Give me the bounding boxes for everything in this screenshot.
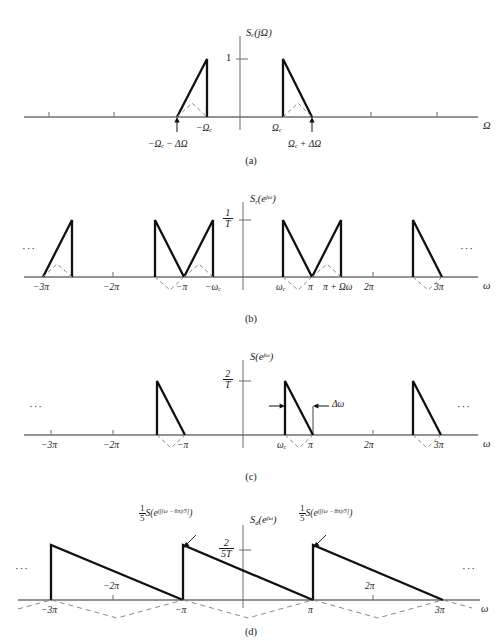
dashed-replica-right — [313, 600, 443, 618]
panel-c-tick-label-2pi: 2π — [364, 441, 374, 451]
panel-b-label-pi-plus: π + Ωω — [323, 283, 353, 293]
pos-wc-text: ω — [277, 440, 284, 450]
fraction-denominator: 5T — [219, 549, 234, 559]
panel-d-tick-label-negpi: −π — [175, 606, 186, 616]
panel-a: Sc(jΩ) 1 Ω −Ωc Ωc −Ωc − ΔΩ Ωc + ΔΩ (a) — [0, 0, 502, 170]
panel-d: Sd(ejω) 25T ω ··· ··· 15S(ej[(ω − 6π)/5]… — [0, 495, 502, 641]
panel-a-label-left-arrow: −Ωc − ΔΩ — [148, 140, 188, 150]
panel-a-label-right-arrow: Ωc + ΔΩ — [288, 140, 321, 150]
left-arrow-rest: − ΔΩ — [164, 139, 188, 149]
annotation-tail: ) — [189, 508, 192, 518]
panel-c-caption: (c) — [0, 471, 502, 482]
panel-d-tick-label-3pi: 3π — [435, 606, 445, 616]
panel-b-tick-label-2pi: 2π — [364, 283, 374, 293]
panel-b-tick-label-neg3pi: −3π — [33, 283, 49, 293]
panel-c-left-ellipsis: ··· — [29, 401, 43, 412]
panel-c-delta-omega-annotation: Δω — [332, 400, 344, 410]
right-arrow-base: Ω — [288, 139, 295, 149]
sawtooth-negpi-to-pi — [183, 545, 313, 600]
panel-c-tick-label-neg3pi: −3π — [41, 441, 57, 451]
y-label-tail: ) — [272, 193, 276, 204]
main-band-triangle — [285, 381, 313, 435]
y-label-rest: (jΩ) — [254, 27, 272, 38]
panel-c-y-axis-label: S(ejω) — [250, 352, 273, 363]
panel-d-left-annotation: 15S(ej[(ω − 6π)/5]) — [139, 504, 192, 523]
annotation-body: S(e — [146, 508, 158, 518]
neg-omega-c-sub: c — [209, 127, 212, 133]
positive-band-triangle — [283, 59, 312, 117]
replica-3pi — [413, 220, 442, 277]
panel-c-y-tick-label: 2T — [223, 369, 233, 390]
dashed-replica-center — [183, 600, 313, 618]
panel-d-left-ellipsis: ··· — [15, 563, 29, 574]
two-over-T-fraction: 2T — [223, 369, 233, 390]
replica-negpi-left — [155, 220, 184, 277]
pos-omega-c-text: Ω — [272, 123, 279, 133]
panel-a-y-axis-label: Sc(jΩ) — [246, 28, 272, 39]
panel-b-label-neg-wc: −ωc — [205, 283, 221, 293]
right-edge-arrowhead — [309, 117, 314, 122]
right-arrow-rest: + ΔΩ — [297, 139, 321, 149]
panel-d-right-ellipsis: ··· — [462, 563, 476, 574]
annotation-exponent: j[(ω − 6π)/5] — [158, 508, 190, 514]
one-over-T-fraction: 1T — [223, 208, 233, 229]
dashed-replica-far-right — [443, 600, 472, 608]
panel-d-right-annotation: 15S(ej[(ω − 8π)/5]) — [299, 504, 352, 523]
panel-b-left-ellipsis: ··· — [22, 243, 36, 254]
panel-c-tick-label-neg2pi: −2π — [103, 441, 119, 451]
annotation-tail: ) — [349, 508, 352, 518]
panel-b-caption: (b) — [0, 313, 502, 324]
panel-b-x-axis-label: ω — [483, 281, 490, 292]
panel-b: Sr(ejω) 1T ω ··· ··· −3π −2π −π −ωc ωc π… — [0, 185, 502, 330]
panel-b-y-axis-label: Sr(ejω) — [250, 194, 276, 205]
panel-d-y-tick-label: 25T — [219, 538, 234, 559]
panel-a-x-axis-label: Ω — [483, 121, 491, 132]
replica-neg3pi — [43, 220, 72, 277]
panel-d-tick-label-2pi: 2π — [365, 582, 375, 592]
panel-d-x-axis-label: ω — [481, 604, 488, 615]
panel-b-tick-label-pi: π — [308, 283, 313, 293]
two-over-5T-fraction: 25T — [219, 538, 234, 559]
replica-pi-left — [283, 220, 312, 277]
panel-a-y-tick-label: 1 — [226, 53, 231, 64]
pos-wc-text: ω — [276, 282, 283, 292]
annotation-body: S(e — [306, 508, 318, 518]
y-label-tail: ) — [273, 514, 277, 525]
panel-b-label-pos-wc: ωc — [276, 283, 285, 293]
y-label-tail: ) — [270, 351, 274, 362]
pos-wc-sub: c — [284, 444, 287, 450]
left-arrow-base: −Ω — [148, 139, 161, 149]
panel-c-tick-label-negpi: −π — [177, 441, 188, 451]
neg-omega-c-text: −Ω — [196, 123, 209, 133]
negative-band-triangle — [177, 59, 207, 117]
panel-b-y-tick-label: 1T — [223, 208, 233, 229]
sawtooth-pi-to-3pi — [313, 545, 443, 600]
panel-d-caption: (d) — [0, 626, 502, 637]
fraction-denominator: T — [223, 380, 233, 390]
panel-a-label-pos-omega-c: Ωc — [272, 124, 281, 134]
panel-c-label-pos-wc: ωc — [277, 441, 286, 451]
panel-d-tick-label-neg2pi: −2π — [103, 582, 119, 592]
panel-c-tick-label-pi: π — [308, 441, 313, 451]
fraction-denominator: T — [223, 219, 233, 229]
neg-wc-text: −ω — [205, 282, 218, 292]
panel-c-right-ellipsis: ··· — [457, 401, 471, 412]
dashed-replica-left — [51, 600, 183, 618]
panel-b-tick-label-3pi: 3π — [434, 283, 444, 293]
y-label-rest: (e — [259, 514, 267, 525]
panel-d-tick-label-pi: π — [308, 606, 313, 616]
replica-negpi-right — [184, 220, 213, 277]
panel-c-x-axis-label: ω — [483, 439, 490, 450]
panel-d-y-axis-label: Sd(ejω) — [250, 515, 277, 526]
panel-a-label-neg-omega-c: −Ωc — [196, 124, 212, 134]
replica-negpi — [157, 381, 185, 435]
delta-right-arrowhead — [313, 403, 318, 408]
annotation-exponent: j[(ω − 8π)/5] — [318, 508, 350, 514]
panel-c: S(ejω) 2T ω ··· ··· Δω −3π −2π −π ωc π 2… — [0, 343, 502, 488]
panel-a-caption: (a) — [0, 155, 502, 166]
panel-a-plot — [0, 0, 502, 150]
sawtooth-neg3pi-to-negpi — [51, 545, 183, 600]
pos-omega-c-sub: c — [279, 127, 282, 133]
replica-3pi — [413, 381, 441, 435]
panel-a-svg — [0, 0, 502, 150]
